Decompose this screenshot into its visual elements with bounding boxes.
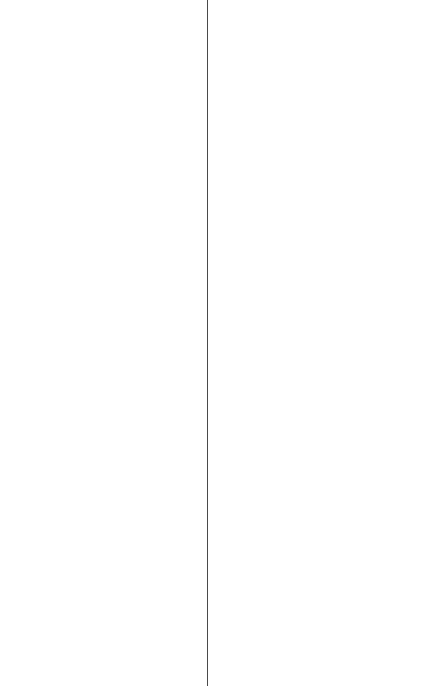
blank-canvas <box>0 0 439 688</box>
vertical-divider-line <box>207 0 208 686</box>
